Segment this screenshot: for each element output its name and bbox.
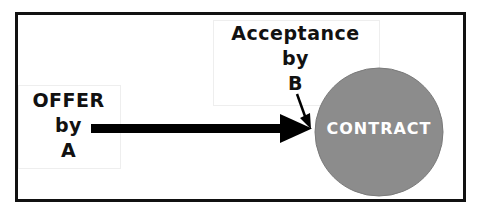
contract-label: CONTRACT xyxy=(314,119,444,138)
diagram-graphics xyxy=(0,0,481,210)
offer-arrow-icon xyxy=(91,114,312,143)
